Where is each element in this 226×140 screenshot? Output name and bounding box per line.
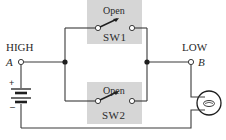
switch-sw1-state: Open	[103, 6, 125, 16]
lamp-icon	[197, 91, 221, 115]
terminal-a-label: A	[6, 57, 13, 68]
terminal-b	[188, 59, 193, 64]
switch-sw1-symbol	[95, 18, 134, 31]
left-junction-dot	[62, 59, 67, 64]
right-junction-dot	[144, 59, 149, 64]
terminal-a	[18, 59, 23, 64]
circuit-diagram: Open SW1 Open SW2 HIGH A LOW B + –	[0, 0, 226, 140]
switch-sw1-label: SW1	[103, 32, 127, 43]
terminal-b-label: B	[198, 57, 205, 68]
high-node-label: HIGH	[6, 42, 34, 53]
low-node-label: LOW	[182, 42, 207, 53]
battery-negative-label: –	[10, 103, 15, 112]
switch-sw2-state: Open	[103, 86, 125, 96]
battery-positive-label: +	[9, 79, 14, 88]
switch-sw2-label: SW2	[102, 110, 126, 121]
battery-icon	[11, 89, 31, 102]
